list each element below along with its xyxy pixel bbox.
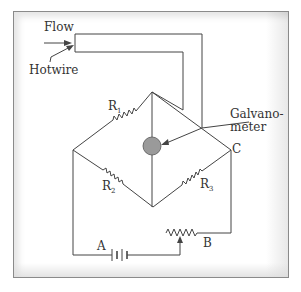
rheostat-wiper-arrow-icon [177, 236, 183, 243]
hotwire-label: Hotwire [29, 63, 78, 77]
wire-battery-to-wiper [127, 242, 180, 255]
flow-arrow-icon [44, 40, 72, 46]
hotwire-loop [75, 34, 202, 128]
node-c-label: C [232, 142, 241, 156]
rheostat-label: B [203, 236, 212, 250]
r1-label: R1 [108, 99, 122, 115]
circuit-diagram: Flow Hotwire R1 R2 R3 Galvano- meter C A… [0, 0, 301, 292]
resistor-r3 [153, 150, 231, 207]
galvanometer-icon [143, 137, 161, 155]
r3-label: R3 [200, 177, 214, 193]
hotwire-pointer-icon [50, 45, 74, 62]
flow-label: Flow [44, 20, 74, 34]
galvanometer-label-line1: Galvano- [230, 107, 284, 121]
rheostat-icon [166, 150, 231, 236]
wire-top-to-c [152, 92, 231, 150]
resistor-r2 [73, 150, 153, 207]
wire-left-down [73, 150, 112, 255]
galvanometer-label-line2: meter [230, 120, 266, 134]
battery-icon [112, 249, 127, 261]
battery-label: A [96, 239, 106, 253]
r2-label: R2 [102, 179, 116, 195]
